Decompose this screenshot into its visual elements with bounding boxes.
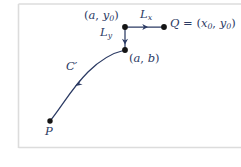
point-q-marker <box>161 24 167 30</box>
curve-direction-arrow-icon <box>75 79 83 86</box>
label-curve-endpoint: (a, b) <box>129 53 160 65</box>
point-p-marker <box>47 118 52 123</box>
curve-c-prime <box>50 50 125 121</box>
label-endpoint-q: Q = (x0, y0) <box>170 18 236 31</box>
label-corner-point: (a, y0) <box>84 10 119 23</box>
point-ab-marker <box>122 47 128 53</box>
point-a-y0-marker <box>122 24 128 30</box>
label-segment-ly: Ly <box>100 27 112 40</box>
figure-container: (a, y0) Lx Q = (x0, y0) Ly (a, b) C′ P <box>0 0 241 167</box>
label-start-point-p: P <box>45 126 53 138</box>
label-segment-lx: Lx <box>140 9 152 22</box>
label-curve-c-prime: C′ <box>66 61 77 73</box>
